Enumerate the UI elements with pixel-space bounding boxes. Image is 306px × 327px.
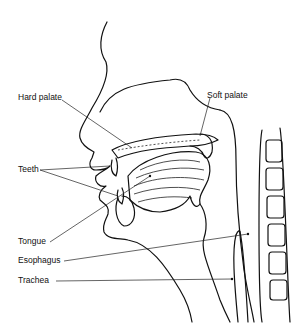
pharynx-wall — [220, 110, 254, 322]
label-tongue: Tongue — [18, 237, 46, 246]
leader-lines — [40, 98, 248, 281]
nasal-cavity — [100, 79, 220, 112]
trachea-tube — [234, 235, 238, 322]
larynx-front — [200, 204, 230, 322]
label-hard-palate: Hard palate — [18, 93, 62, 102]
label-esophagus: Esophagus — [18, 256, 61, 265]
vertebral-column — [259, 128, 290, 322]
label-teeth: Teeth — [18, 165, 39, 174]
label-trachea: Trachea — [18, 276, 49, 285]
tongue-hatching — [134, 160, 204, 202]
upper-teeth — [111, 158, 117, 176]
label-soft-palate: Soft palate — [207, 91, 248, 100]
soft-palate — [190, 134, 212, 158]
face-profile — [80, 22, 192, 322]
